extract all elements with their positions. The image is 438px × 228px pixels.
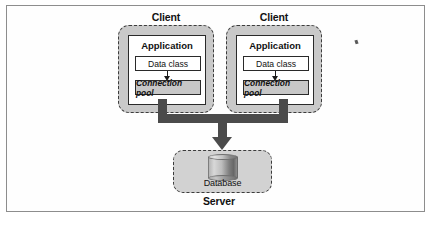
client-box-right[interactable]: Application Data class Connection pool xyxy=(226,25,322,113)
application-box-left[interactable]: Application Data class Connection pool xyxy=(128,35,206,105)
data-class-box-right[interactable]: Data class xyxy=(243,56,309,71)
client-title-right: Client xyxy=(226,11,322,23)
application-title-right: Application xyxy=(237,40,313,51)
database-cylinder-icon[interactable] xyxy=(208,154,238,181)
database-label: Database xyxy=(173,178,272,188)
connection-pool-box-right[interactable]: Connection pool xyxy=(243,80,309,95)
server-title: Server xyxy=(0,195,438,207)
application-box-right[interactable]: Application Data class Connection pool xyxy=(236,35,314,105)
connection-pool-box-left[interactable]: Connection pool xyxy=(135,80,201,95)
client-title-left: Client xyxy=(118,11,214,23)
arrow-head-icon-server xyxy=(212,137,232,150)
application-title-left: Application xyxy=(129,40,205,51)
data-class-box-left[interactable]: Data class xyxy=(135,56,201,71)
diagram-canvas: Client Application Data class Connection… xyxy=(0,0,438,228)
cylinder-top xyxy=(208,154,238,160)
